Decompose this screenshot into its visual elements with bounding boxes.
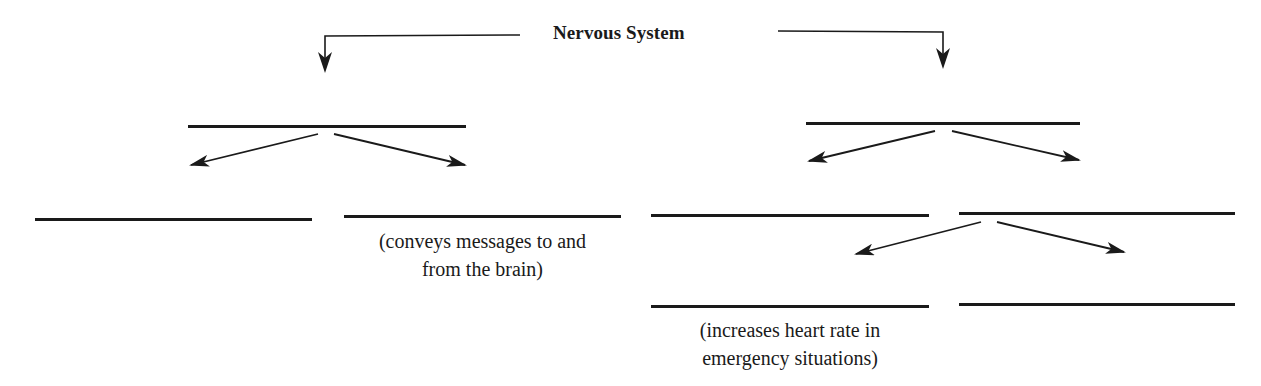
blank-left-branch[interactable] — [188, 125, 466, 128]
sub-branch-arrow-right — [997, 222, 1124, 252]
title-to-right-arrow — [778, 31, 950, 69]
note-line: (conveys messages to and — [344, 227, 621, 255]
blank-right-child-1[interactable] — [651, 214, 929, 217]
left-branch-arrow-right — [334, 134, 465, 165]
nervous-system-diagram: Nervous System (conveys messages to and … — [0, 0, 1261, 386]
blank-sub-child-1[interactable] — [651, 305, 929, 308]
blank-left-child-1[interactable] — [35, 218, 312, 221]
title-to-left-arrow — [318, 35, 520, 73]
note-line: from the brain) — [344, 255, 621, 283]
left-branch-arrow-left — [191, 134, 318, 165]
left-child-2-note: (conveys messages to and from the brain) — [344, 227, 621, 283]
blank-left-child-2[interactable] — [344, 215, 621, 218]
connector-arrows — [0, 0, 1261, 386]
note-line: (increases heart rate in — [651, 316, 929, 344]
blank-right-child-2[interactable] — [959, 212, 1235, 215]
note-line: emergency situations) — [651, 344, 929, 372]
right-branch-arrow-left — [809, 131, 935, 161]
diagram-title: Nervous System — [553, 22, 685, 44]
blank-right-branch[interactable] — [806, 122, 1080, 125]
sub-branch-arrow-left — [856, 222, 981, 254]
sub-child-1-note: (increases heart rate in emergency situa… — [651, 316, 929, 372]
right-branch-arrow-right — [952, 131, 1079, 160]
blank-sub-child-2[interactable] — [959, 303, 1235, 306]
